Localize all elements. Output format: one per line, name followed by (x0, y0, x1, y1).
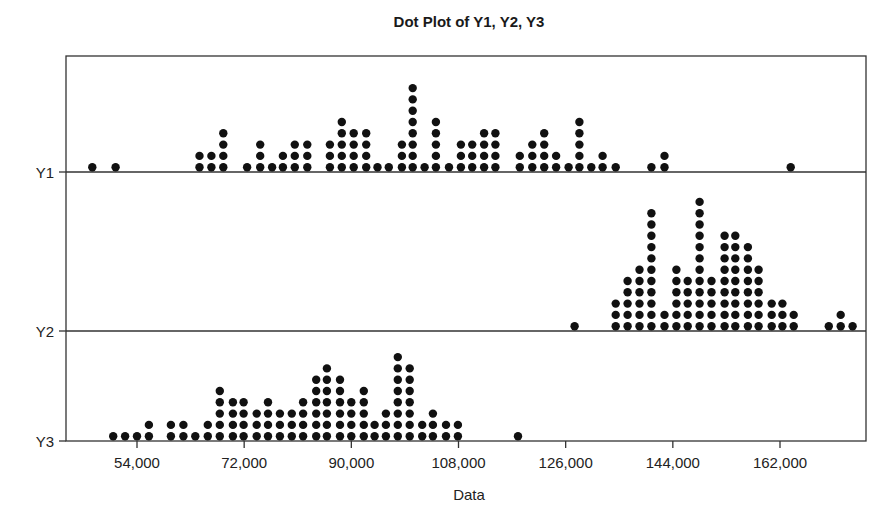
dot-y1 (373, 163, 381, 171)
dot-y1 (338, 129, 346, 137)
dot-y3 (288, 432, 296, 440)
dot-y2 (647, 243, 655, 251)
dot-y3 (288, 409, 296, 417)
dot-y2 (744, 277, 752, 285)
dot-plot-chart: Dot Plot of Y1, Y2, Y3 Y1Y2Y3 54,00072,0… (0, 0, 893, 531)
dot-y3 (406, 398, 414, 406)
dot-y2 (731, 322, 739, 330)
dot-y1 (528, 140, 536, 148)
dot-y3 (394, 376, 402, 384)
dot-y3 (406, 364, 414, 372)
dot-y3 (179, 432, 187, 440)
dot-y1 (457, 140, 465, 148)
dot-y3 (299, 432, 307, 440)
dot-y2 (754, 322, 762, 330)
dot-y1 (540, 140, 548, 148)
dot-y3 (239, 432, 247, 440)
dot-y3 (406, 409, 414, 417)
dot-y1 (445, 163, 453, 171)
dot-y2 (695, 288, 703, 296)
dot-y1 (409, 84, 417, 92)
dot-y3 (312, 432, 320, 440)
row-label-y3: Y3 (36, 433, 54, 450)
dot-y2 (623, 311, 631, 319)
dot-y3 (336, 432, 344, 440)
dot-y1 (338, 140, 346, 148)
dot-y2 (720, 254, 728, 262)
dot-y2 (825, 322, 833, 330)
dot-y3 (264, 398, 272, 406)
dot-y3 (370, 432, 378, 440)
dot-y2 (660, 311, 668, 319)
dot-y2 (635, 311, 643, 319)
dot-y1 (362, 140, 370, 148)
dot-y3 (394, 387, 402, 395)
x-tick-label: 126,000 (539, 454, 593, 471)
dot-y1 (480, 140, 488, 148)
dot-y3 (167, 421, 175, 429)
x-axis: 54,00072,00090,000108,000126,000144,0001… (114, 441, 807, 471)
dot-y3 (229, 409, 237, 417)
x-tick-label: 144,000 (646, 454, 700, 471)
dot-y3 (253, 421, 261, 429)
dot-y2 (744, 299, 752, 307)
dot-y1 (660, 163, 668, 171)
dot-y3 (121, 432, 129, 440)
dot-y3 (299, 398, 307, 406)
dot-y3 (382, 409, 390, 417)
dot-y1 (468, 140, 476, 148)
dot-y1 (457, 152, 465, 160)
dot-y1 (540, 163, 548, 171)
dot-y2 (684, 322, 692, 330)
dot-y2 (837, 311, 845, 319)
dot-y2 (695, 232, 703, 240)
dot-y1 (195, 152, 203, 160)
dot-y3 (299, 421, 307, 429)
dot-y2 (672, 299, 680, 307)
x-axis-label: Data (453, 486, 485, 503)
dot-y1 (468, 163, 476, 171)
dot-y1 (219, 152, 227, 160)
dot-y2 (672, 288, 680, 296)
dot-y2 (647, 277, 655, 285)
dot-y1 (432, 152, 440, 160)
dot-y2 (660, 322, 668, 330)
dot-y1 (516, 163, 524, 171)
dot-y2 (695, 311, 703, 319)
dot-y3 (312, 409, 320, 417)
dot-y3 (191, 432, 199, 440)
dots-layer (88, 84, 857, 441)
dot-y1 (409, 152, 417, 160)
dot-y2 (695, 322, 703, 330)
dot-y1 (291, 140, 299, 148)
dot-y2 (720, 311, 728, 319)
dot-y3 (347, 421, 355, 429)
dot-y2 (731, 299, 739, 307)
dot-y2 (635, 266, 643, 274)
dot-y3 (406, 376, 414, 384)
dot-y2 (754, 277, 762, 285)
dot-y1 (480, 163, 488, 171)
dot-y3 (323, 421, 331, 429)
dot-y3 (418, 432, 426, 440)
dot-y3 (360, 432, 368, 440)
dot-y2 (647, 220, 655, 228)
dot-y3 (394, 409, 402, 417)
dot-y2 (695, 209, 703, 217)
dot-y2 (684, 288, 692, 296)
dot-y2 (570, 322, 578, 330)
dot-y2 (744, 311, 752, 319)
dot-y3 (312, 387, 320, 395)
dot-y3 (442, 432, 450, 440)
dot-y2 (695, 243, 703, 251)
dot-y3 (312, 421, 320, 429)
dot-y2 (754, 288, 762, 296)
dot-y1 (207, 163, 215, 171)
dot-y1 (432, 129, 440, 137)
dot-y1 (279, 152, 287, 160)
dot-y1 (598, 152, 606, 160)
dot-y1 (207, 152, 215, 160)
dot-y2 (623, 322, 631, 330)
dot-y1 (268, 163, 276, 171)
dot-y2 (672, 266, 680, 274)
